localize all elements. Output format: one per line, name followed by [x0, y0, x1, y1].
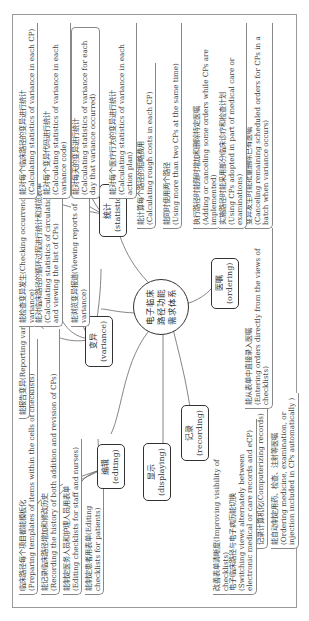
statistics-item-2-en: (Calculating statistics of variance in e…: [52, 25, 69, 195]
category-ordering-cn: 医嘱: [215, 263, 225, 304]
editing-item-4-cn: 能制定患者用表单(Editing checklists for patients…: [85, 491, 102, 591]
center-line-1: 电子临床: [145, 289, 156, 325]
ordering-item-1-en: (Entering orders directly from the views…: [254, 230, 271, 405]
ordering-item-4-en: (Using more than two CPs at the same tim…: [172, 25, 181, 225]
recording-item-2-en: (Ordering medicine, examination, or inje…: [280, 395, 297, 545]
recording-item-1: 记录计算机化(Computerizing records): [257, 403, 268, 549]
displaying-item-2: 电子临床路径与电子病历能切换 (Switching views alternat…: [229, 419, 257, 595]
ordering-item-4: 能同时使用两个路径 (Using more than two CPs at th…: [163, 23, 182, 229]
statistics-item-1-en: (Calculating statistics of variance in e…: [28, 25, 37, 195]
ordering-item-1: 能从表单中直接录入医嘱 (Entering orders directly fr…: [245, 228, 273, 409]
statistics-item-4: 能对每个医疗行为的变异进行统计 (Calculating statistics …: [109, 23, 137, 199]
category-recording-cn: 记录: [185, 410, 195, 456]
displaying-item-2-en: (Switching views alternately between ele…: [238, 421, 255, 591]
category-recording: 记录 (recording): [181, 405, 209, 461]
category-editing-cn: 编辑: [101, 449, 111, 484]
statistics-item-4-en: (Calculating statistics of variance in e…: [118, 25, 135, 195]
statistics-item-2: 能对每个变异代码进行统计 (Calculating statistics of …: [43, 23, 71, 199]
center-line-2: 路径功能: [156, 289, 167, 325]
ordering-item-3: 执行路径时能随时增加和删除特定医嘱 (Adding or canceling s…: [193, 23, 221, 229]
editing-item-3: 能制定医务人员和护理人员用表单 (Editing checklists for …: [63, 439, 82, 595]
recording-item-2: 能自动制定用药、检查、注射等医嘱 (Ordering medicine, exa…: [271, 393, 299, 549]
recording-item-1-cn: 记录计算机化(Computerizing records): [257, 405, 266, 545]
statistics-item-3-en: (Calculating statistics of variance for …: [81, 30, 98, 195]
ordering-item-6-en: (Calculating rough costs in each CP): [146, 65, 155, 225]
category-variance-en: (variance): [99, 321, 109, 362]
category-ordering-en: (ordering): [225, 263, 235, 304]
mind-map: 电子临床 路径功能 需求体系 编辑 (editing) 变异 (variance…: [13, 15, 298, 609]
category-displaying-en: (displaying): [157, 448, 167, 496]
ordering-item-3-en: (Adding or canceling some orders while C…: [202, 25, 219, 225]
diagram-frame: 电子临床 路径功能 需求体系 编辑 (editing) 变异 (variance…: [12, 14, 297, 608]
editing-item-4: 能制定患者用表单(Editing checklists for patients…: [85, 489, 104, 595]
statistics-item-1: 能对每个临床路径的变异进行统计 (Calculating statistics …: [19, 23, 38, 199]
center-line-3: 需求体系: [167, 289, 178, 325]
editing-item-2: 能记录临床路径增加和修改历史 (Recording the history of…: [41, 329, 60, 595]
ordering-item-5-en: (Using CPs adopted in part of medical ca…: [228, 25, 245, 225]
ordering-item-2-en: (Canceling remaining scheduled orders fo…: [254, 25, 271, 225]
category-displaying: 显示 (displaying): [143, 443, 171, 501]
category-editing: 编辑 (editing): [97, 444, 125, 489]
statistics-item-3: 能对每天的变异进行统计 (Calculating statistics of v…: [71, 27, 100, 199]
category-displaying-cn: 显示: [147, 448, 157, 496]
category-variance-cn: 变异: [89, 321, 99, 362]
center-node: 电子临床 路径功能 需求体系: [133, 279, 189, 335]
category-editing-en: (editing): [111, 449, 121, 484]
editing-item-3-en: (Editing checklists for staff and nurses…: [72, 441, 81, 591]
ordering-item-5: 实施路径时能采用部分临床诊疗和检查计划 (Using CPs adopted i…: [219, 23, 247, 229]
ordering-item-2: 变异发生时能批量删除已有医嘱 (Canceling remaining sche…: [245, 23, 273, 229]
category-recording-en: (recording): [195, 410, 205, 456]
editing-item-2-en: (Recording the history of both addition …: [50, 331, 59, 591]
ordering-item-6: 能计算每个路径的粗略费用 (Calculating rough costs in…: [137, 63, 156, 229]
category-ordering: 医嘱 (ordering): [211, 258, 239, 309]
